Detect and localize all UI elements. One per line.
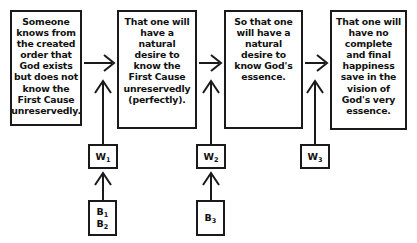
backing-box-1: B1 B2 — [88, 200, 117, 236]
warrant-3-subscript: 3 — [318, 156, 323, 164]
claim-1-text: Someone knows from the created order tha… — [11, 16, 81, 116]
backing-2-subscript-1: 3 — [212, 217, 217, 225]
warrant-box-1: W1 — [88, 144, 118, 169]
claim-box-4: That one will have no complete and final… — [330, 10, 407, 130]
warrant-2-support-arrow — [201, 80, 221, 144]
warrant-box-2: W2 — [196, 144, 226, 169]
argument-diagram: Someone knows from the created order tha… — [0, 0, 417, 243]
claim-2-text: That one will have a natural desire to k… — [122, 16, 192, 105]
backing-1-support-arrow — [93, 172, 113, 200]
implication-arrow-3-to-4 — [305, 53, 329, 73]
warrant-3-support-arrow — [305, 80, 325, 144]
backing-2-line-1: B3 — [205, 212, 217, 224]
backing-1-line-1: B1 — [97, 206, 109, 218]
backing-1-subscript-1: 1 — [104, 211, 109, 219]
backing-1-line-2: B2 — [97, 218, 109, 230]
backing-1-subscript-2: 2 — [104, 223, 109, 231]
claim-box-3: So that one will have a natural desire t… — [224, 10, 303, 129]
warrant-1-subscript: 1 — [106, 156, 111, 164]
claim-box-1: Someone knows from the created order tha… — [10, 10, 82, 126]
backing-2-support-arrow — [201, 172, 221, 200]
warrant-1-support-arrow — [93, 80, 113, 144]
warrant-1-label: W1 — [95, 151, 110, 163]
backing-box-2: B3 — [196, 200, 225, 236]
implication-arrow-2-to-3 — [199, 53, 223, 73]
warrant-2-subscript: 2 — [214, 156, 219, 164]
claim-4-text: That one will have no complete and final… — [335, 16, 402, 116]
warrant-box-3: W3 — [300, 144, 330, 169]
claim-3-text: So that one will have a natural desire t… — [229, 16, 298, 83]
claim-box-2: That one will have a natural desire to k… — [117, 10, 197, 129]
warrant-2-label: W2 — [203, 151, 218, 163]
warrant-3-label: W3 — [307, 151, 322, 163]
implication-arrow-1-to-2 — [84, 53, 116, 73]
